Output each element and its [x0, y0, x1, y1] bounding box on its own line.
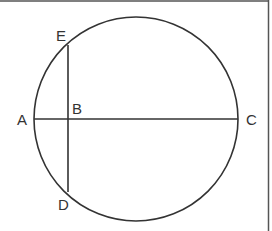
geometry-diagram: E A B C D: [0, 0, 272, 231]
point-label-a: A: [17, 111, 27, 128]
point-label-b: B: [72, 100, 82, 117]
point-label-d: D: [58, 196, 69, 213]
point-label-e: E: [56, 27, 66, 44]
point-label-c: C: [246, 111, 257, 128]
